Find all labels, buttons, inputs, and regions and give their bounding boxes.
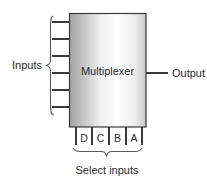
select-inputs-brace-icon xyxy=(73,148,142,156)
multiplexer-block-diagram: Inputs Multiplexer Output D C B A Select… xyxy=(0,0,207,183)
input-wire-group xyxy=(52,22,70,107)
select-pin-label-c: C xyxy=(97,132,105,144)
inputs-brace-icon xyxy=(47,16,54,115)
select-inputs-label: Select inputs xyxy=(76,164,139,176)
multiplexer-label: Multiplexer xyxy=(81,65,135,77)
inputs-label: Inputs xyxy=(12,59,42,71)
select-pin-label-d: D xyxy=(80,132,88,144)
select-pin-label-b: B xyxy=(114,132,121,144)
diagram-canvas: Inputs Multiplexer Output D C B A Select… xyxy=(0,0,207,183)
select-pin-label-a: A xyxy=(130,132,137,144)
output-label: Output xyxy=(172,67,205,79)
